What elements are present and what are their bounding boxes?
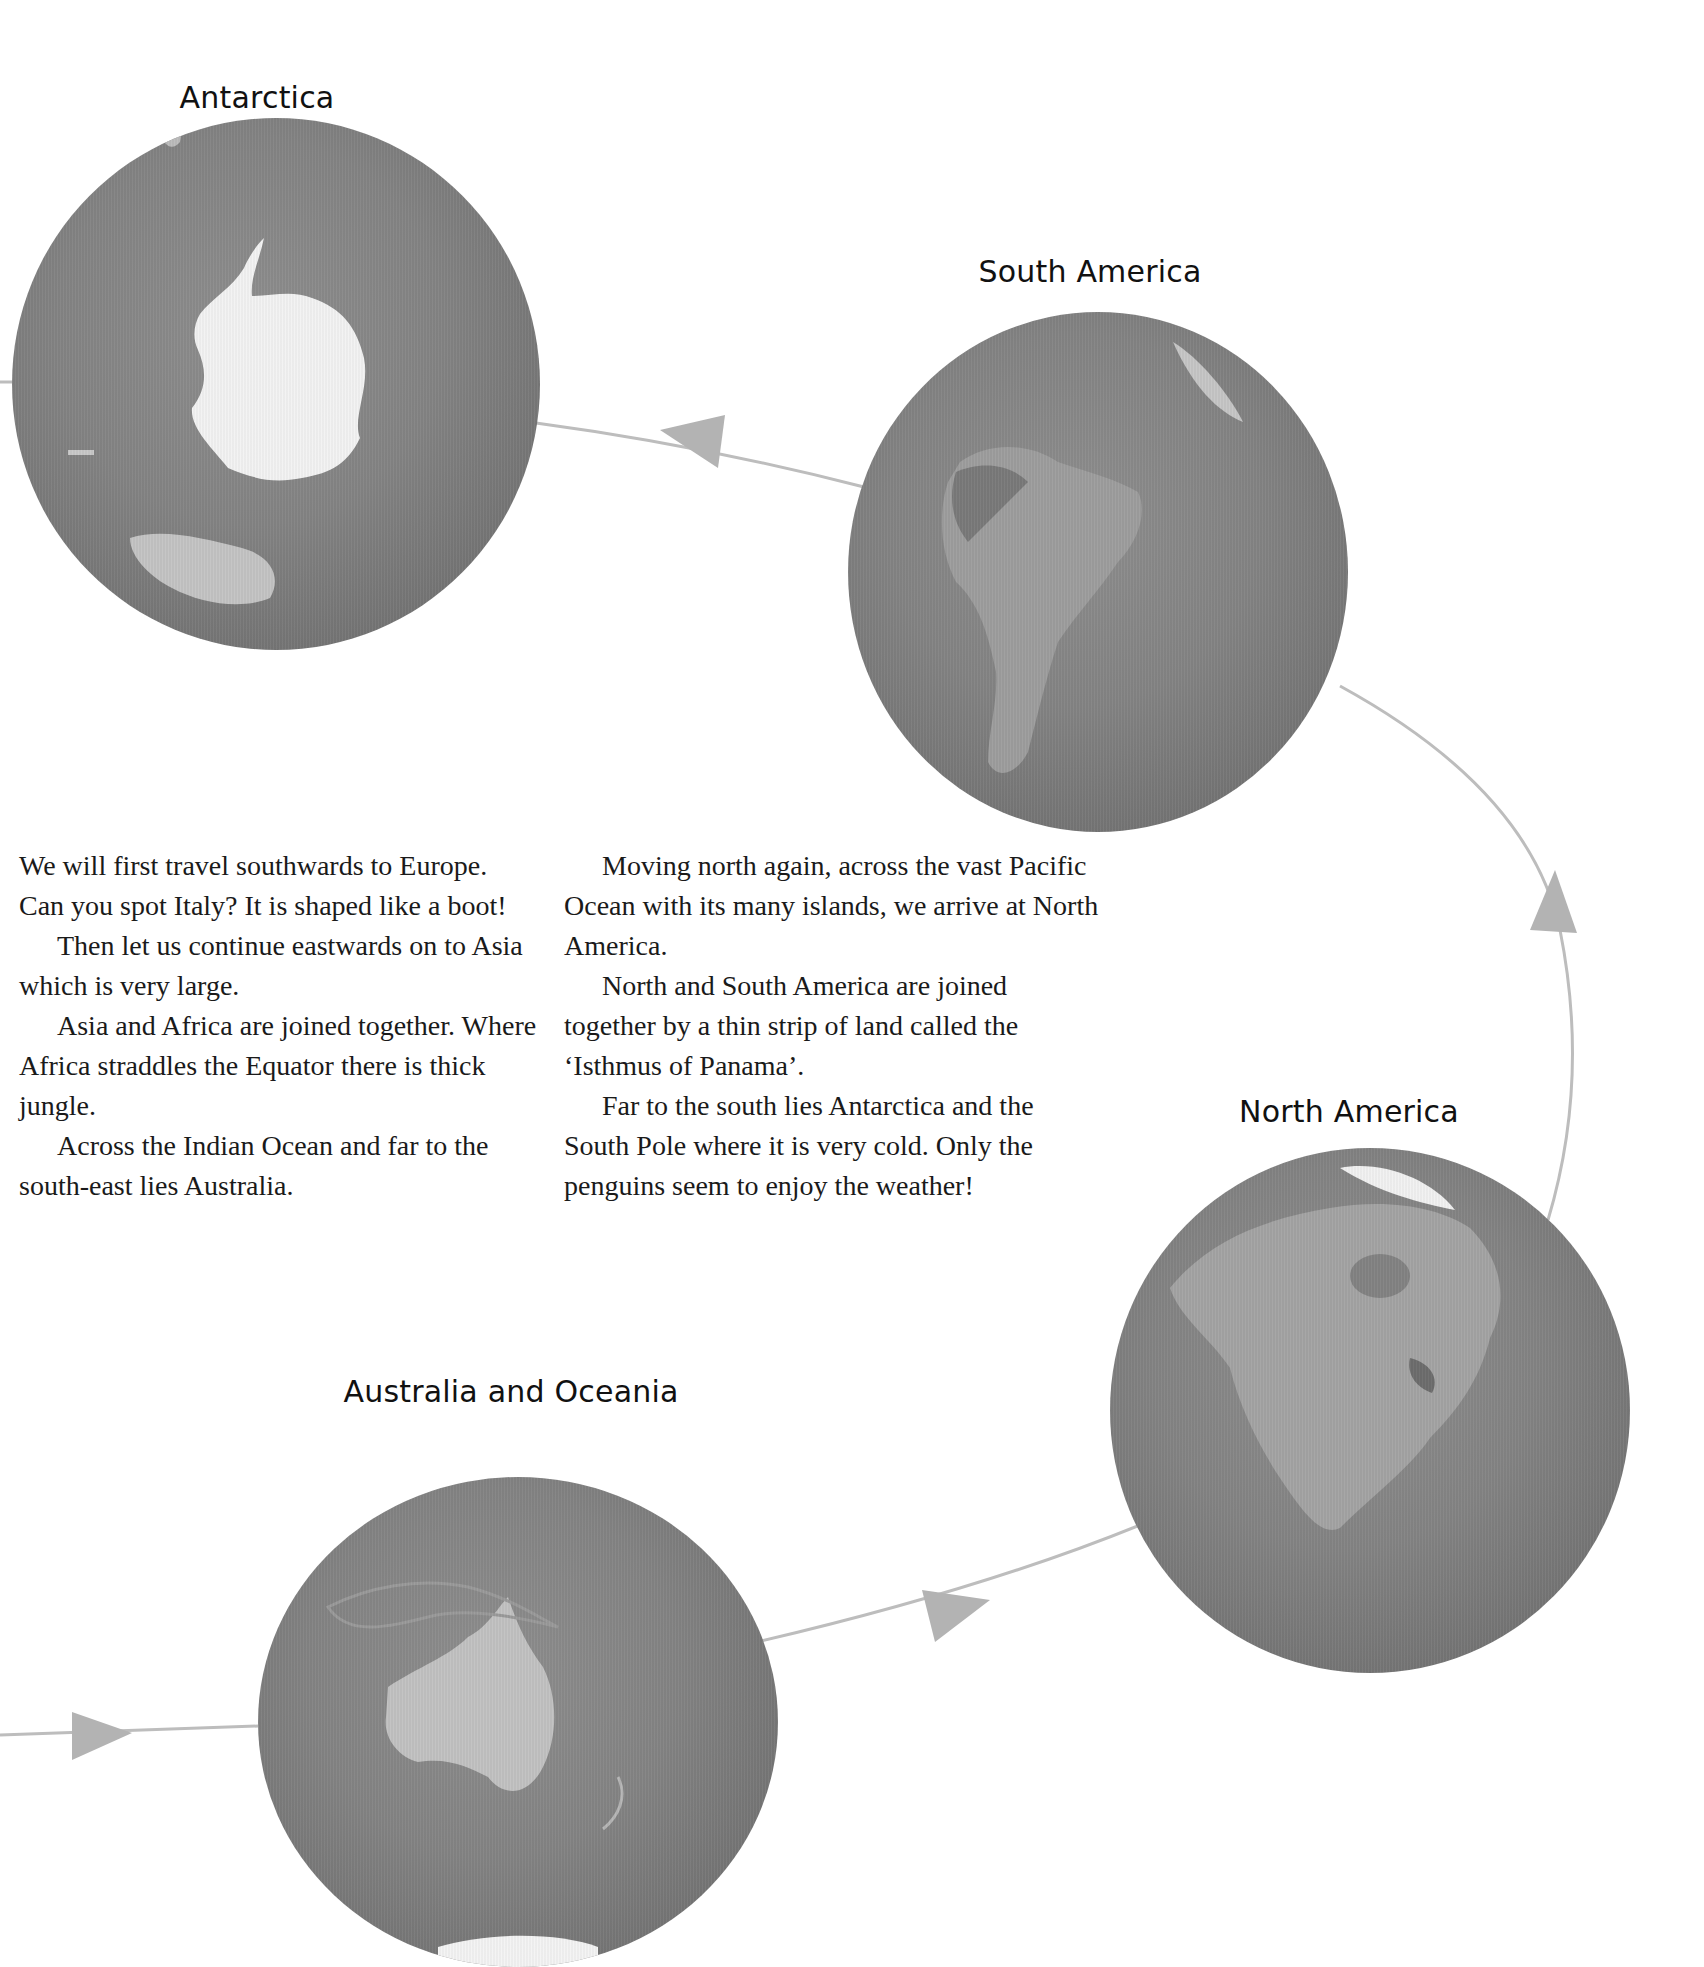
- paragraph: Then let us continue eastwards on to Asi…: [19, 926, 539, 1006]
- arrow-right-icon: [922, 1590, 990, 1642]
- globe-australia-oceania: [258, 1477, 778, 1967]
- paragraph: North and South America are joined toget…: [564, 966, 1104, 1086]
- paragraph: Asia and Africa are joined together. Whe…: [19, 1006, 539, 1126]
- arrow-left-icon: [660, 415, 725, 468]
- australia-landmass: [258, 1477, 778, 1967]
- globe-north-america: [1110, 1148, 1630, 1673]
- globe-south-america: [848, 312, 1348, 832]
- paragraph: Moving north again, across the vast Paci…: [564, 846, 1104, 966]
- text-column-right: Moving north again, across the vast Paci…: [564, 846, 1104, 1206]
- arrow-right-icon-2: [72, 1712, 132, 1760]
- north-america-landmass: [1110, 1148, 1630, 1673]
- antarctica-landmass: [12, 118, 540, 650]
- globe-label-south-america: South America: [978, 254, 1201, 289]
- arrow-up-icon: [1530, 870, 1577, 933]
- text-column-left: We will first travel southwards to Europ…: [19, 846, 539, 1206]
- globe-label-north-america: North America: [1239, 1094, 1459, 1129]
- globe-label-antarctica: Antarctica: [180, 80, 335, 115]
- globe-label-australia-oceania: Australia and Oceania: [343, 1374, 678, 1409]
- globe-antarctica: [12, 118, 540, 650]
- south-america-landmass: [848, 312, 1348, 832]
- paragraph: Far to the south lies Antarctica and the…: [564, 1086, 1104, 1206]
- paragraph: We will first travel southwards to Europ…: [19, 846, 539, 926]
- paragraph: Across the Indian Ocean and far to the s…: [19, 1126, 539, 1206]
